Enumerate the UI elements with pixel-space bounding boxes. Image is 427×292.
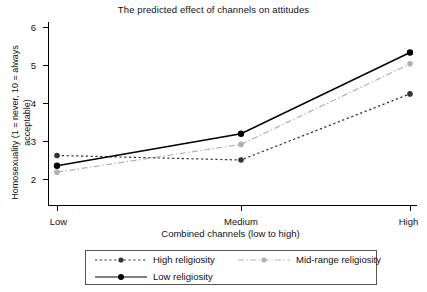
chart-title: The predicted effect of channels on atti… bbox=[0, 4, 427, 15]
legend-label-low-religiosity: Low religiosity bbox=[153, 271, 213, 282]
legend-row-1: High religiosity Mid-range religiosity bbox=[86, 251, 376, 268]
series-high-religiosity bbox=[54, 91, 413, 163]
y-tick-label-3: 3 bbox=[31, 136, 36, 147]
chart-container: The predicted effect of channels on atti… bbox=[0, 0, 427, 292]
legend-key-low-religiosity bbox=[95, 271, 147, 283]
y-axis-label: Homosexuality (1 = never, 10 = always ac… bbox=[10, 23, 33, 223]
x-tick-label-medium: Medium bbox=[224, 216, 258, 227]
x-tick-label-high: High bbox=[399, 216, 419, 227]
chart-legend: High religiosity Mid-range religiosity bbox=[85, 250, 377, 285]
data-point bbox=[238, 142, 244, 148]
legend-item-low-religiosity[interactable]: Low religiosity bbox=[86, 268, 236, 285]
series-layer bbox=[48, 22, 417, 206]
y-tick-label-2: 2 bbox=[31, 174, 36, 185]
x-tick-low: Low bbox=[57, 206, 58, 211]
legend-item-high-religiosity[interactable]: High religiosity bbox=[86, 251, 234, 268]
legend-label-high-religiosity: High religiosity bbox=[153, 254, 215, 265]
x-tick-high: High bbox=[410, 206, 411, 211]
legend-item-mid-range-religiosity[interactable]: Mid-range religiosity bbox=[234, 251, 376, 268]
x-axis-label: Combined channels (low to high) bbox=[42, 228, 419, 239]
legend-label-mid-range-religiosity: Mid-range religiosity bbox=[296, 254, 381, 265]
series-mid-range-religiosity bbox=[54, 61, 413, 175]
data-point bbox=[238, 157, 244, 163]
data-point bbox=[54, 169, 60, 175]
data-point bbox=[407, 61, 413, 67]
plot-area: 6 5 4 3 2 Low Medium High bbox=[48, 22, 417, 206]
data-point bbox=[407, 49, 413, 55]
data-point bbox=[54, 163, 60, 169]
data-point bbox=[238, 131, 244, 137]
legend-key-high-religiosity bbox=[95, 254, 147, 266]
x-tick-medium: Medium bbox=[241, 206, 242, 211]
series-low-religiosity bbox=[54, 49, 413, 169]
x-tick-label-low: Low bbox=[50, 216, 67, 227]
series-line bbox=[57, 94, 410, 160]
y-tick-label-6: 6 bbox=[31, 22, 36, 33]
data-point bbox=[54, 153, 60, 159]
data-point bbox=[407, 91, 413, 97]
y-tick-label-5: 5 bbox=[31, 60, 36, 71]
legend-row-2: Low religiosity bbox=[86, 268, 376, 285]
y-tick-label-4: 4 bbox=[31, 98, 36, 109]
series-line bbox=[57, 52, 410, 165]
legend-key-mid-range-religiosity bbox=[238, 254, 290, 266]
